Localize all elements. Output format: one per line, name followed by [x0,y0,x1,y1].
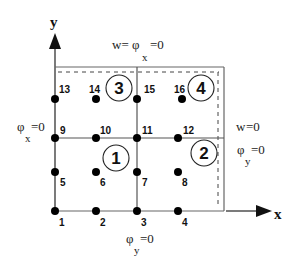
node-number: 14 [89,84,101,95]
mesh-node: 10 [92,125,112,142]
node-dot-icon [92,134,100,142]
mesh-node: 7 [133,168,148,188]
y-axis-label: y [50,14,58,30]
mesh-node: 6 [92,168,106,188]
mesh-node: 11 [133,125,153,142]
bc-right-w-main: w [236,119,246,134]
mesh-node: 13 [51,84,71,103]
mesh-node: 12 [174,125,195,142]
node-number: 16 [174,84,186,95]
bc-top-sub: x [142,51,148,63]
element-marker: 2 [191,140,217,166]
node-number: 1 [59,217,65,228]
mesh-node: 2 [92,207,106,228]
elements-layer: 1234 [103,75,217,171]
bc-right-w: w =0 [236,119,260,134]
node-dot-icon [133,168,141,176]
element-marker: 3 [106,75,132,101]
node-number: 7 [142,177,148,188]
node-dot-icon [174,168,182,176]
bc-bottom: φ y =0 [126,231,154,256]
node-number: 2 [100,217,106,228]
bc-left-tail: =0 [31,119,45,134]
node-dot-icon [51,207,59,215]
node-number: 3 [141,217,147,228]
node-dot-icon [92,168,100,176]
x-axis-arrow-icon [256,205,272,217]
node-dot-icon [51,95,59,103]
node-number: 9 [60,125,66,136]
x-axis-label: x [274,206,282,222]
node-dot-icon [92,207,100,215]
node-number: 12 [183,125,195,136]
bc-right-phi-tail: =0 [251,142,265,157]
node-number: 11 [142,125,153,136]
node-dot-icon [178,95,186,103]
element-marker: 1 [103,145,129,171]
node-number: 5 [60,177,66,188]
y-axis-arrow-icon [49,33,61,49]
bc-top-main: w= φ [112,37,139,52]
node-number: 4 [182,217,188,228]
mesh-node: 8 [174,168,188,188]
element-number: 3 [114,79,123,98]
bc-right-phi: φ y =0 [237,142,265,167]
bc-left-main: φ [17,119,25,134]
mesh-node: 15 [133,84,156,103]
node-dot-icon [133,207,141,215]
node-dot-icon [51,134,59,142]
bc-top-tail: =0 [150,37,164,52]
node-dot-icon [133,134,141,142]
node-number: 6 [100,177,106,188]
mesh-node: 9 [51,125,66,142]
node-dot-icon [133,95,141,103]
mesh-node: 4 [174,207,188,228]
node-dot-icon [92,95,100,103]
element-number: 4 [196,79,206,98]
node-number: 15 [144,84,156,95]
bc-right-phi-main: φ [237,142,245,157]
node-dot-icon [174,207,182,215]
bc-bottom-main: φ [126,231,134,246]
mesh-node: 3 [133,207,147,228]
finite-element-mesh-diagram: y x 1234 12345678910111213141516 w= φ x … [0,0,292,270]
bc-top: w= φ x =0 [112,37,164,63]
bc-right-w-tail: =0 [246,119,260,134]
element-number: 2 [199,144,208,163]
element-marker: 4 [188,75,214,101]
node-dot-icon [51,168,59,176]
mesh-node: 14 [89,84,101,103]
node-number: 10 [100,125,112,136]
element-number: 1 [111,149,120,168]
node-dot-icon [174,134,182,142]
mesh-node: 5 [51,168,66,188]
svg-text:w= φ: w= φ [112,37,139,52]
bc-bottom-tail: =0 [140,231,154,246]
node-number: 8 [182,177,188,188]
bc-left: φ x =0 [17,119,45,144]
mesh-node: 1 [51,207,65,228]
node-number: 13 [59,84,71,95]
mesh-node: 16 [174,84,186,103]
